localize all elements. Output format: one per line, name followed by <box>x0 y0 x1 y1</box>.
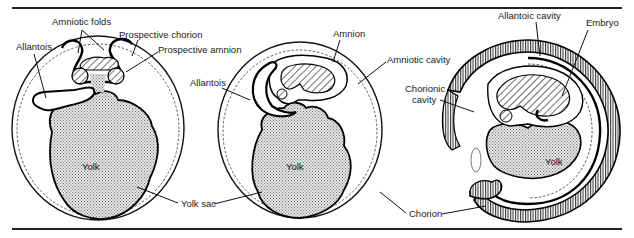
chorion-left-edge <box>442 90 460 150</box>
label-allantois-middle: Allantois <box>190 77 226 88</box>
yolk-mass <box>50 88 158 219</box>
embryo-coil <box>277 89 287 99</box>
embryo-body <box>281 64 335 93</box>
label-embryo: Embryo <box>586 17 619 28</box>
embryo-coil <box>500 110 512 122</box>
label-amniotic-folds: Amniotic folds <box>52 16 111 27</box>
label-prospective-amnion: Prospective amnion <box>158 44 241 55</box>
right-fold-coil <box>108 68 124 84</box>
yolk-stalk <box>470 180 502 198</box>
leader-prospective-amnion <box>126 52 158 72</box>
allantoic-duct <box>471 148 481 172</box>
embryonic-membranes-figure: Yolk Amniotic folds Prospective chorion … <box>0 0 634 238</box>
panel-middle: Yolk Amnion Amniotic cavity Allantois <box>190 28 451 218</box>
yolk-label: Yolk <box>286 161 304 172</box>
label-prospective-chorion: Prospective chorion <box>119 29 202 40</box>
leader-allantois-middle <box>222 88 250 100</box>
leader-chorion-left <box>380 192 406 213</box>
label-allantois-early: Allantois <box>16 41 52 52</box>
yolk-label: Yolk <box>82 161 100 172</box>
label-chorion: Chorion <box>409 208 442 219</box>
label-yolk-sac: Yolk sac <box>181 198 216 209</box>
panel-early: Yolk Amniotic folds Prospective chorion … <box>12 16 241 220</box>
yolk-label: Yolk <box>545 156 563 167</box>
label-allantoic-cavity: Allantoic cavity <box>498 10 561 21</box>
label-chorionic-cavity-2: cavity <box>412 94 437 105</box>
panel-late: Yolk Allantoic cavity Embryo Chorionic c… <box>405 10 620 222</box>
leader-chorion-right <box>442 206 486 214</box>
left-fold-coil <box>72 68 88 84</box>
label-amnion: Amnion <box>333 28 365 39</box>
yolk-mass <box>487 122 581 179</box>
leader-amnion <box>333 40 340 62</box>
label-amniotic-cavity: Amniotic cavity <box>387 54 451 65</box>
label-chorionic-cavity-1: Chorionic <box>405 83 445 94</box>
